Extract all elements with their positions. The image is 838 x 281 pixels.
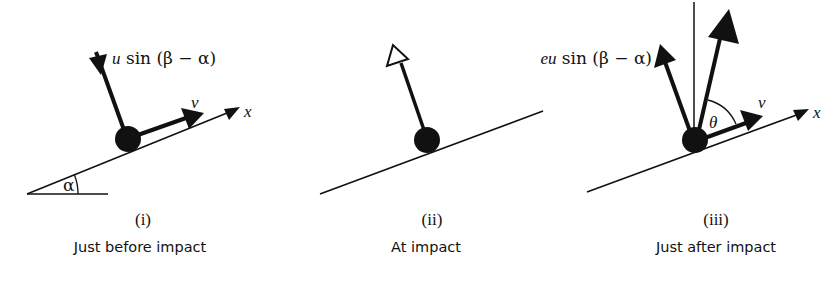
panel-caption: At impact [391,239,461,255]
panel-at-impact: (ii) At impact [320,45,543,255]
x-axis-arrowhead-icon [224,107,240,120]
x-axis-arrowhead-icon [793,109,809,121]
x-axis-label: x [812,103,821,122]
resultant-velocity-arrowhead-icon [708,9,739,44]
tangent-velocity-label: v [758,93,766,112]
impulse-shaft [401,63,424,130]
ball [682,127,708,153]
impact-diagram: x α u sin (β − α) v (i) Just before impa… [0,0,838,281]
panel-number-label: (iii) [703,210,729,229]
ball [115,126,141,152]
alpha-angle-arc [75,175,79,194]
tangent-velocity-label: v [191,93,199,112]
panel-number-label: (ii) [422,210,443,229]
inclined-plane-line [27,111,232,194]
panel-just-after-impact: x eu sin (β − α) θ v (iii) Just after im… [540,2,821,255]
panel-caption: Just after impact [655,239,776,255]
rebound-normal-velocity-label: eu sin (β − α) [540,48,652,68]
rebound-normal-velocity-shaft [665,62,691,134]
ball [414,127,440,153]
inclined-plane-line [320,111,543,194]
theta-angle-label: θ [709,113,717,132]
alpha-angle-label: α [63,175,75,195]
panel-number-label: (i) [135,210,151,229]
incoming-velocity-label: u sin (β − α) [112,48,216,68]
x-axis-label: x [243,102,252,121]
panel-just-before-impact: x α u sin (β − α) v (i) Just before impa… [27,48,252,255]
impulse-hollow-arrowhead-icon [387,45,408,66]
panel-caption: Just before impact [73,239,207,255]
